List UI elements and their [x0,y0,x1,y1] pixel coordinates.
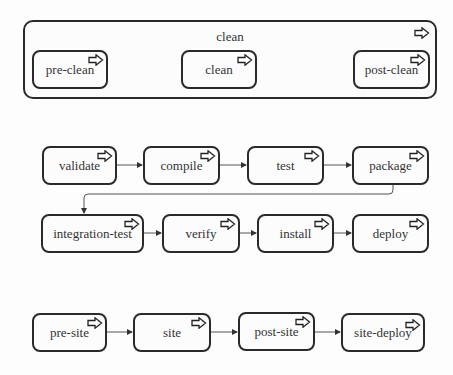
phase-label: pre-clean [46,62,94,78]
block-arrow-right-icon [410,54,426,66]
block-arrow-right-icon [295,316,311,328]
phase-deploy[interactable]: deploy [352,214,429,253]
phase-label: pre-site [50,325,89,341]
phase-label: integration-test [53,226,132,242]
phase-label: site [163,325,181,341]
phase-test[interactable]: test [247,146,324,185]
phase-package[interactable]: package [352,146,429,185]
phase-validate[interactable]: validate [42,146,117,185]
phase-pre-site[interactable]: pre-site [32,313,107,352]
block-arrow-right-icon [200,150,216,162]
lifecycle-title: clean [25,29,435,45]
phase-site[interactable]: site [133,313,211,352]
block-arrow-right-icon [87,317,103,329]
phase-label: package [369,158,412,174]
block-arrow-right-icon [304,150,320,162]
block-arrow-right-icon [409,218,425,230]
phase-post-site[interactable]: post-site [238,312,315,351]
block-arrow-right-icon [405,319,421,331]
phase-site-deploy[interactable]: site-deploy [341,313,425,352]
block-arrow-right-icon [237,54,253,66]
phase-label: site-deploy [354,325,412,341]
block-arrow-right-icon [414,27,430,39]
phase-label: validate [59,158,100,174]
phase-clean[interactable]: clean [181,50,257,89]
phase-label: compile [161,158,203,174]
block-arrow-right-icon [191,317,207,329]
phase-post-clean[interactable]: post-clean [353,50,430,89]
block-arrow-right-icon [314,218,330,230]
phase-label: verify [185,226,216,242]
phase-verify[interactable]: verify [162,214,240,253]
phase-label: clean [205,62,232,78]
block-arrow-right-icon [409,150,425,162]
phase-integration-test[interactable]: integration-test [41,214,144,253]
block-arrow-right-icon [97,150,113,162]
block-arrow-right-icon [88,54,104,66]
phase-pre-clean[interactable]: pre-clean [32,50,108,89]
phase-label: install [280,226,312,242]
block-arrow-right-icon [124,218,140,230]
phase-install[interactable]: install [257,214,334,253]
phase-label: test [276,158,294,174]
block-arrow-right-icon [220,218,236,230]
phase-label: post-site [254,324,298,340]
phase-compile[interactable]: compile [143,146,220,185]
phase-label: deploy [373,226,408,242]
